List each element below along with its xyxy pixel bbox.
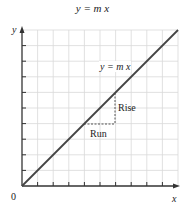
y-axis-label: y xyxy=(12,24,16,35)
run-label: Run xyxy=(90,128,107,139)
y-axis-arrow-icon xyxy=(20,26,25,33)
x-axis-arrow-icon xyxy=(173,184,180,189)
origin-label: 0 xyxy=(11,191,16,202)
rise-label: Rise xyxy=(118,102,136,113)
x-axis-label: x xyxy=(172,193,176,204)
line-graph xyxy=(0,0,185,209)
line-label: y = m x xyxy=(99,61,131,72)
